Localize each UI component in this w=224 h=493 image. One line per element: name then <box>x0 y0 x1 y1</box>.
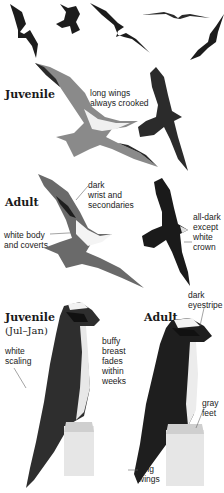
leader-lines <box>0 290 112 493</box>
adult-flight-light-illustration <box>36 172 154 290</box>
bird-silhouette-icon <box>54 2 82 36</box>
adult-flight-dark-illustration <box>140 176 196 288</box>
perched-adult-section: Adult dark eyestripe gray feet long wing… <box>112 290 224 493</box>
bird-silhouette-icon <box>88 1 154 53</box>
flight-adult-section: Adult dark wrist and secondaries white b… <box>0 170 224 290</box>
juvenile-flight-dark-illustration <box>136 65 194 173</box>
bird-silhouette-icon <box>8 2 40 58</box>
leader-lines <box>112 290 224 493</box>
flight-juvenile-section: Juvenile long wings always crooked <box>0 55 224 170</box>
perched-juvenile-section: Juvenile (Jul–Jan) white scaling buffy b… <box>0 290 112 493</box>
silhouette-row <box>0 0 224 60</box>
bird-silhouette-icon <box>188 14 224 60</box>
